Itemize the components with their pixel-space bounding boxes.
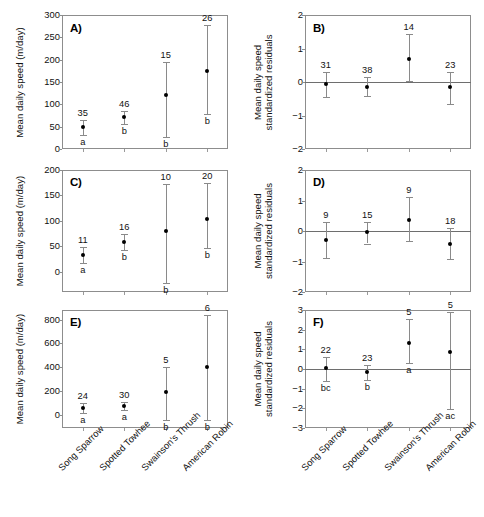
y-tick-label: −1 — [283, 256, 303, 267]
sample-size-label: 9 — [393, 185, 425, 195]
y-tick-mark — [302, 15, 305, 16]
y-axis-title: Mean daily speed (m/day) — [14, 310, 26, 428]
x-tick-mark — [367, 292, 368, 295]
data-point — [407, 341, 411, 345]
sample-size-label: 38 — [351, 65, 383, 75]
x-axis-category-label: Song Sparrow — [299, 434, 338, 473]
plot-area — [62, 15, 228, 149]
sample-size-label: 9 — [310, 210, 342, 220]
error-bar-cap-upper — [323, 357, 330, 358]
y-tick-mark — [59, 272, 62, 273]
group-letter-label: ac — [434, 411, 466, 421]
sample-size-label: 15 — [150, 50, 182, 60]
sample-size-label: 5 — [434, 300, 466, 310]
y-tick-mark — [302, 149, 305, 150]
error-bar-cap-upper — [447, 312, 454, 313]
y-tick-label: 50 — [34, 121, 60, 132]
sample-size-label: 20 — [191, 171, 223, 181]
y-tick-mark — [302, 201, 305, 202]
x-tick-mark — [326, 428, 327, 431]
y-tick-label: 2 — [283, 164, 303, 175]
y-axis-title: Mean daily speedstandardized residuals — [252, 15, 275, 150]
sample-size-label: 11 — [67, 235, 99, 245]
y-tick-label: 1 — [283, 343, 303, 354]
y-axis-title-line2: standardized residuals — [263, 310, 274, 428]
x-tick-mark — [166, 149, 167, 152]
error-bar-cap-lower — [121, 410, 128, 411]
y-tick-mark — [59, 170, 62, 171]
error-bar-cap-upper — [364, 365, 371, 366]
error-bar-cap-lower — [406, 363, 413, 364]
group-letter-label: b — [108, 126, 140, 136]
error-bar-cap-lower — [204, 420, 211, 421]
data-point — [365, 85, 369, 89]
error-bar-cap-lower — [406, 81, 413, 82]
y-tick-label: 0 — [34, 143, 60, 154]
y-tick-mark — [59, 37, 62, 38]
x-tick-mark — [207, 292, 208, 295]
y-tick-mark — [302, 262, 305, 263]
x-tick-mark — [83, 292, 84, 295]
y-tick-mark — [302, 292, 305, 293]
data-point — [407, 57, 411, 61]
x-axis-category-label: American Robin — [423, 434, 462, 473]
sample-size-label: 35 — [67, 108, 99, 118]
sample-size-label: 15 — [351, 210, 383, 220]
sample-size-label: 14 — [393, 22, 425, 32]
error-bar-cap-lower — [163, 420, 170, 421]
x-axis-category-label: Swainson's Thrush — [382, 434, 421, 473]
y-axis-title: Mean daily speedstandardized residuals — [252, 170, 275, 292]
x-tick-mark — [326, 292, 327, 295]
x-tick-mark — [367, 149, 368, 152]
error-bar-cap-lower — [80, 413, 87, 414]
error-bar-cap-upper — [323, 222, 330, 223]
error-bar — [450, 312, 451, 409]
sample-size-label: 16 — [108, 222, 140, 232]
sample-size-label: 5 — [393, 307, 425, 317]
sample-size-label: 18 — [434, 216, 466, 226]
data-point — [81, 253, 85, 257]
panel-letter: B) — [313, 22, 325, 34]
y-axis-title-line1: Mean daily speed — [252, 170, 263, 292]
y-tick-mark — [59, 15, 62, 16]
y-tick-mark — [302, 170, 305, 171]
y-tick-label: −2 — [283, 143, 303, 154]
error-bar-cap-lower — [323, 258, 330, 259]
x-tick-mark — [207, 149, 208, 152]
sample-size-label: 22 — [310, 345, 342, 355]
y-tick-mark — [302, 349, 305, 350]
error-bar-cap-lower — [447, 259, 454, 260]
y-axis-title: Mean daily speedstandardized residuals — [252, 310, 275, 428]
y-tick-label: 0 — [34, 409, 60, 420]
y-tick-mark — [59, 104, 62, 105]
error-bar-cap-upper — [163, 184, 170, 185]
y-tick-label: 100 — [34, 215, 60, 226]
x-tick-mark — [450, 292, 451, 295]
error-bar-cap-upper — [204, 315, 211, 316]
figure-canvas: A)050100150200250300Mean daily speed (m/… — [0, 0, 484, 517]
y-tick-label: 0 — [34, 266, 60, 277]
error-bar-cap-lower — [121, 124, 128, 125]
y-tick-label: −1 — [283, 110, 303, 121]
data-point — [164, 229, 168, 233]
error-bar-cap-lower — [163, 137, 170, 138]
error-bar — [207, 183, 208, 249]
x-tick-mark — [450, 149, 451, 152]
error-bar-cap-upper — [447, 228, 454, 229]
group-letter-label: a — [393, 365, 425, 375]
y-tick-label: 0 — [283, 76, 303, 87]
y-axis-title-line2: standardized residuals — [263, 15, 274, 150]
y-tick-label: −3 — [283, 422, 303, 433]
error-bar-cap-lower — [80, 263, 87, 264]
x-tick-mark — [83, 149, 84, 152]
error-bar-cap-lower — [364, 96, 371, 97]
y-tick-label: 100 — [34, 98, 60, 109]
zero-reference-line — [305, 369, 471, 370]
error-bar-cap-upper — [447, 72, 454, 73]
y-tick-label: 0 — [283, 363, 303, 374]
panel-letter: C) — [70, 176, 82, 188]
y-tick-label: 600 — [34, 337, 60, 348]
y-tick-label: −1 — [283, 383, 303, 394]
sample-size-label: 23 — [351, 353, 383, 363]
error-bar-cap-upper — [121, 111, 128, 112]
